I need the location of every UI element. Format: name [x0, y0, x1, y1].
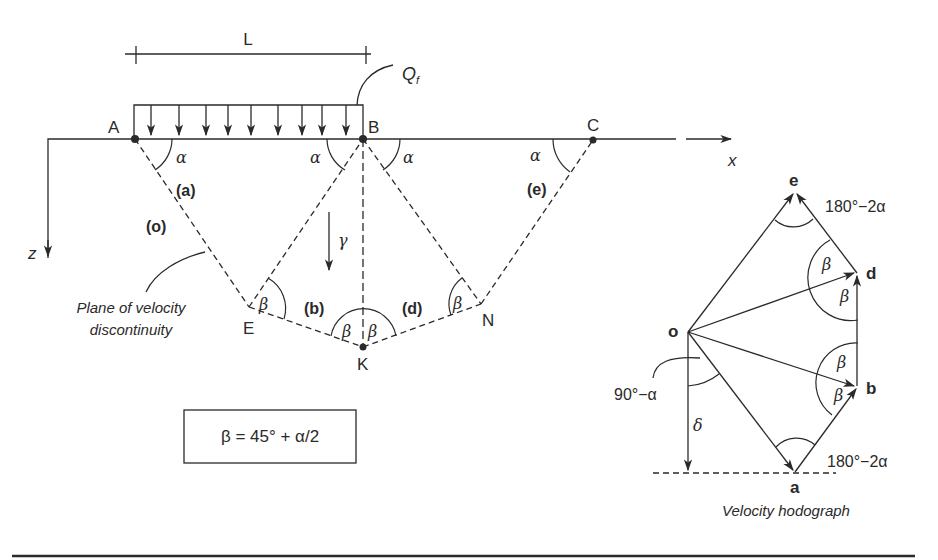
- annotation-line2: discontinuity: [90, 321, 174, 338]
- hodo-beta-b-upper: β: [836, 353, 846, 372]
- beta-label-K-left: β: [341, 322, 351, 341]
- region-b: (b): [304, 300, 324, 317]
- label-N: N: [482, 311, 494, 330]
- velocity-hodograph: e d b a o 180°−2α 180°−2α 90°−α δ β β β …: [614, 171, 888, 519]
- alpha-label-C: α: [530, 146, 541, 165]
- dimension-label: L: [243, 30, 252, 49]
- hodo-angle-bottom: 180°−2α: [827, 453, 888, 470]
- alpha-label-B-left: α: [310, 148, 321, 167]
- alpha-label-B-right: α: [403, 148, 414, 167]
- hodo-label-a: a: [790, 478, 800, 497]
- beta-label-N: β: [452, 294, 462, 313]
- hodo-angle-left: 90°−α: [614, 386, 657, 403]
- hodo-angle-top: 180°−2α: [825, 198, 886, 215]
- region-d: (d): [402, 300, 422, 317]
- alpha-label-A: α: [176, 148, 187, 167]
- label-A: A: [108, 118, 120, 137]
- label-C: C: [587, 116, 599, 135]
- hodo-label-e: e: [789, 171, 798, 190]
- hodo-label-o: o: [668, 322, 678, 341]
- formula-box: β = 45° + α/2: [184, 410, 356, 463]
- region-e: (e): [527, 181, 547, 198]
- label-K: K: [357, 355, 369, 374]
- hodo-delta: δ: [693, 416, 703, 435]
- hodo-label-d: d: [866, 264, 876, 283]
- region-a: (a): [176, 182, 196, 199]
- hodo-beta-d-upper: β: [821, 255, 831, 274]
- x-axis-label: x: [727, 151, 737, 170]
- hodo-beta-b-lower: β: [833, 386, 843, 405]
- region-o: (o): [146, 218, 166, 235]
- gamma-label: γ: [338, 231, 348, 250]
- hodo-label-b: b: [866, 379, 876, 398]
- beta-formula: β = 45° + α/2: [221, 427, 319, 446]
- label-B: B: [368, 118, 379, 137]
- discontinuity-annotation: Plane of velocity discontinuity: [76, 252, 205, 338]
- discontinuity-planes: [135, 139, 593, 347]
- hodograph-title: Velocity hodograph: [722, 502, 850, 519]
- z-axis-label: z: [27, 244, 37, 263]
- axes: x z: [27, 139, 737, 263]
- hodo-beta-d-lower: β: [839, 287, 849, 306]
- beta-label-K-right: β: [367, 322, 377, 341]
- failure-mechanism-diagram: L Qf x z A B C E K N: [0, 0, 938, 560]
- dimension-L: L: [125, 30, 371, 64]
- label-E: E: [243, 319, 254, 338]
- load-label: Qf: [402, 64, 420, 86]
- beta-label-E: β: [258, 295, 268, 314]
- annotation-line1: Plane of velocity: [76, 299, 187, 316]
